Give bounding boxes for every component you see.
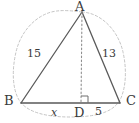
measure-label-bd: x xyxy=(51,107,57,118)
segment-ad-altitude xyxy=(81,12,82,103)
vertex-label-c: C xyxy=(126,94,136,107)
circumscribed-ellipse xyxy=(13,11,125,117)
measure-label-ac: 13 xyxy=(102,48,116,59)
geometry-figure: A B C D 15 13 x 5 xyxy=(0,0,139,123)
right-angle-marker xyxy=(81,96,88,103)
measure-label-ab: 15 xyxy=(27,48,41,59)
vertex-label-b: B xyxy=(4,94,14,107)
vertex-label-d: D xyxy=(74,106,84,119)
geometry-canvas xyxy=(0,0,139,123)
measure-label-dc: 5 xyxy=(95,106,102,117)
vertex-label-a: A xyxy=(75,0,84,13)
